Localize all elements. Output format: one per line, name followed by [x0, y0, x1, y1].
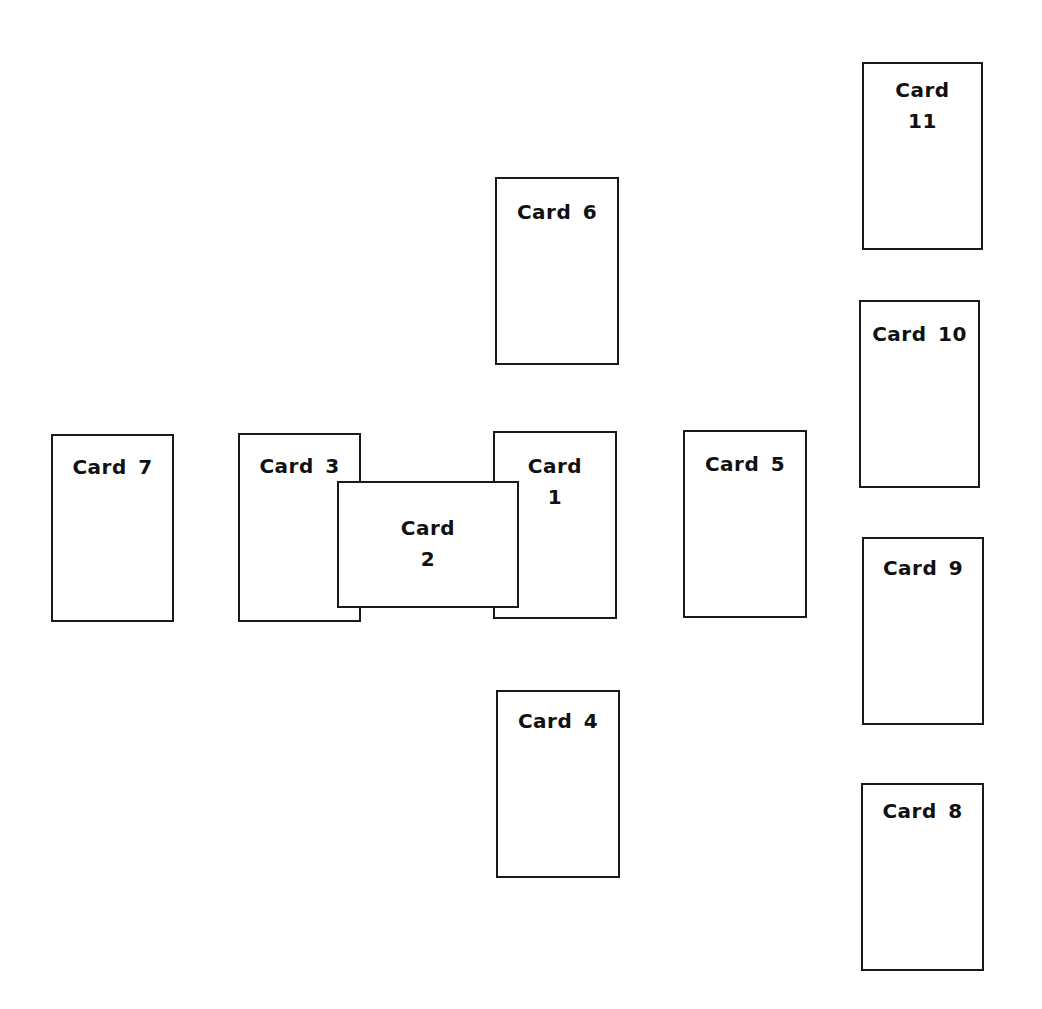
card-10-label: Card 10 [861, 319, 978, 350]
card-8-label: Card 8 [863, 796, 982, 827]
card-layout-diagram: Card 7 Card 3 Card 1 Card 2 Card 4 Card … [0, 0, 1042, 1009]
card-9: Card 9 [862, 537, 984, 725]
card-4: Card 4 [496, 690, 620, 878]
card-6-label: Card 6 [497, 197, 617, 228]
card-11: Card 11 [862, 62, 983, 250]
card-2-label: Card 2 [339, 513, 517, 575]
card-10: Card 10 [859, 300, 980, 488]
card-8: Card 8 [861, 783, 984, 971]
card-11-label: Card 11 [864, 75, 981, 137]
card-3-label: Card 3 [240, 451, 359, 482]
card-9-label: Card 9 [864, 553, 982, 584]
card-6: Card 6 [495, 177, 619, 365]
card-4-label: Card 4 [498, 706, 618, 737]
card-5: Card 5 [683, 430, 807, 618]
card-7-label: Card 7 [53, 452, 172, 483]
card-7: Card 7 [51, 434, 174, 622]
card-2: Card 2 [337, 481, 519, 608]
card-5-label: Card 5 [685, 449, 805, 480]
